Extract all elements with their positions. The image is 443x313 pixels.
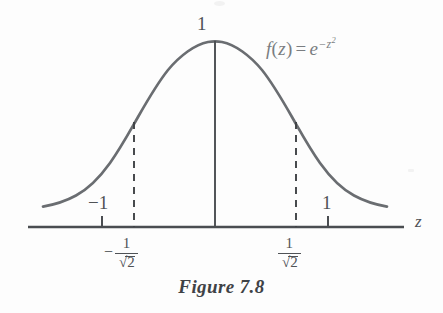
formula-close-paren: ) bbox=[286, 38, 293, 59]
x-tick-label-neg1: −1 bbox=[88, 193, 108, 212]
x-axis-label: z bbox=[415, 213, 422, 230]
minus-sign: − bbox=[104, 243, 113, 263]
x-marker-label-neg-inv-sqrt2: − 1 √2 bbox=[104, 236, 138, 271]
figure-container: 1 f(z)=e−z2 −1 1 z − 1 √2 1 √2 Figure 7.… bbox=[0, 0, 443, 313]
square-root-icon: √2 bbox=[118, 255, 135, 271]
formula-exponent: −z2 bbox=[318, 38, 336, 51]
fraction-numerator: 1 bbox=[120, 236, 134, 253]
radical-vinculum bbox=[125, 256, 135, 257]
scan-artifact-speck bbox=[214, 1, 225, 6]
square-root-icon: √2 bbox=[281, 255, 298, 271]
fraction: 1 √2 bbox=[115, 236, 138, 271]
formula-exponent-power: 2 bbox=[331, 35, 336, 45]
gaussian-plot-svg bbox=[0, 0, 443, 313]
formula-equals: = bbox=[293, 38, 310, 59]
formula-exponent-sign: − bbox=[318, 38, 326, 51]
function-formula: f(z)=e−z2 bbox=[266, 36, 336, 58]
x-marker-label-pos-inv-sqrt2: 1 √2 bbox=[278, 236, 301, 271]
x-tick-label-pos1: 1 bbox=[322, 193, 332, 212]
peak-value-label: 1 bbox=[197, 14, 207, 33]
radical-vinculum bbox=[288, 256, 298, 257]
figure-caption: Figure 7.8 bbox=[0, 276, 443, 298]
scan-artifact-speck bbox=[408, 169, 414, 172]
formula-variable: z bbox=[278, 38, 286, 59]
fraction-denominator: √2 bbox=[115, 254, 138, 271]
fraction: 1 √2 bbox=[278, 236, 301, 271]
fraction-denominator: √2 bbox=[278, 254, 301, 271]
fraction-numerator: 1 bbox=[283, 236, 297, 253]
